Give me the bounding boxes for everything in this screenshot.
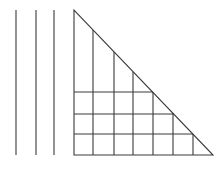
right-triangle [74, 10, 213, 155]
triangle-outline [74, 10, 213, 155]
free-vertical-lines [16, 10, 54, 155]
triangle-grid-diagram [0, 0, 223, 182]
diagram-canvas [0, 0, 223, 182]
